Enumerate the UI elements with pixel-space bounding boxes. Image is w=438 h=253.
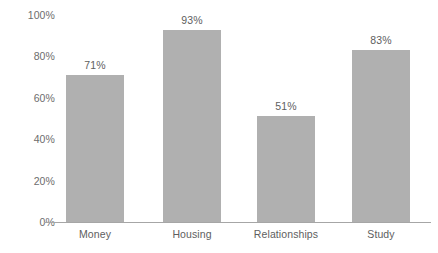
- y-axis-tick-40: 40%: [7, 133, 55, 145]
- bar-value-money: 71%: [66, 59, 124, 71]
- plot-area: 100% 80% 60% 40% 20% 0% 71% 93% 51% 83% …: [0, 0, 438, 253]
- x-axis-label-money: Money: [49, 228, 141, 240]
- bar-housing[interactable]: [163, 30, 221, 223]
- bar-money[interactable]: [66, 75, 124, 222]
- y-axis-tick-100: 100%: [7, 9, 55, 21]
- y-axis-tick-20: 20%: [7, 175, 55, 187]
- bar-chart: 100% 80% 60% 40% 20% 0% 71% 93% 51% 83% …: [0, 0, 438, 253]
- y-axis-tick-80: 80%: [7, 50, 55, 62]
- bar-value-study: 83%: [352, 34, 410, 46]
- x-axis-label-housing: Housing: [146, 228, 238, 240]
- bar-relationships[interactable]: [257, 116, 315, 222]
- x-axis-label-relationships: Relationships: [240, 228, 332, 240]
- y-axis-tick-60: 60%: [7, 92, 55, 104]
- bar-value-housing: 93%: [163, 14, 221, 26]
- bar-study[interactable]: [352, 50, 410, 222]
- x-axis-line: [44, 222, 431, 223]
- bar-value-relationships: 51%: [257, 100, 315, 112]
- x-axis-label-study: Study: [335, 228, 427, 240]
